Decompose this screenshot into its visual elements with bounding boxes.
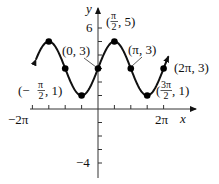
label-pi-half-5: ( π 2 , 5)	[106, 10, 135, 32]
svg-text:, 1): , 1)	[45, 83, 62, 98]
svg-text:2: 2	[39, 90, 44, 101]
svg-text:π: π	[111, 10, 116, 21]
svg-text:(−: (−	[18, 83, 30, 98]
x-tick-label-neg2pi: −2π	[8, 112, 29, 127]
label-2pi-3: (2π, 3)	[174, 60, 209, 75]
svg-text:3π: 3π	[161, 79, 171, 90]
svg-text:2: 2	[164, 90, 169, 101]
svg-text:, 5): , 5)	[118, 14, 135, 29]
svg-text:, 1): , 1)	[172, 83, 189, 98]
y-axis-label: y	[84, 1, 92, 16]
y-tick-label-6: 6	[86, 20, 93, 35]
svg-text:(: (	[156, 83, 160, 98]
x-axis-label: x	[179, 111, 186, 126]
leader-0-3	[84, 58, 96, 67]
leader-pi-3	[132, 57, 142, 66]
svg-text:(: (	[106, 14, 110, 29]
x-tick-label-2pi: 2π	[155, 112, 169, 127]
y-tick-label-neg4: −4	[76, 155, 90, 170]
svg-text:2: 2	[112, 21, 117, 32]
label-pi-3: (π, 3)	[128, 42, 156, 57]
sine-graph: y x 6 −4 −2π 2π (0, 3) (π, 3) (2π, 3) ( …	[0, 0, 219, 184]
y-ticks	[98, 28, 102, 163]
label-0-3: (0, 3)	[62, 43, 90, 58]
svg-text:π: π	[38, 79, 43, 90]
label-neg-pi-half-1: (− π 2 , 1)	[18, 79, 62, 101]
label-3pi-half-1: ( 3π 2 , 1)	[156, 79, 189, 101]
